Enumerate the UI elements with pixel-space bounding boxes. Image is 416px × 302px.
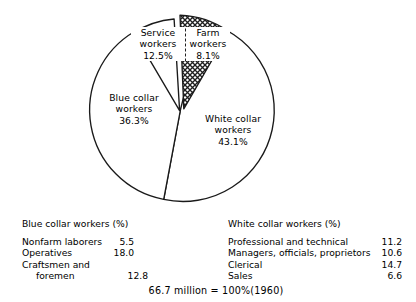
- table-row: Professional and technical 11.2: [228, 236, 402, 248]
- white-collar-table-title: White collar workers (%): [228, 218, 402, 230]
- pie-label-blue-collar: Blue collar workers 36.3%: [101, 92, 167, 126]
- pie-chart-figure: Service workers 12.5% Farm workers 8.1% …: [0, 0, 416, 302]
- pie-label-service: Service workers 12.5%: [131, 27, 185, 61]
- pie-label-white-collar: White collar workers 43.1%: [198, 113, 268, 147]
- table-cell-value: 12.8: [122, 270, 148, 282]
- table-cell-label: Sales: [228, 270, 374, 282]
- table-cell-label: Professional and technical: [228, 236, 374, 248]
- table-cell-label: Managers, officials, proprietors: [228, 247, 374, 259]
- table-cell-value: 5.5: [108, 236, 134, 248]
- white-collar-breakdown-table: White collar workers (%) Professional an…: [228, 218, 402, 282]
- chart-caption-text: 66.7 million = 100%(1960): [133, 285, 284, 296]
- table-cell-label: Craftsmen and: [22, 259, 108, 271]
- table-cell-value: 11.2: [374, 236, 402, 248]
- table-row: Sales 6.6: [228, 270, 402, 282]
- pie-label-white-collar-value: 43.1%: [198, 136, 268, 147]
- pie-label-farm: Farm workers 8.1%: [186, 27, 230, 61]
- pie-label-farm-line2: workers: [187, 38, 229, 49]
- pie-label-white-collar-line2: workers: [198, 124, 268, 135]
- pie-label-service-line2: workers: [131, 38, 185, 49]
- table-cell-value: 6.6: [374, 270, 402, 282]
- pie-label-blue-collar-line2: workers: [101, 103, 167, 114]
- pie-label-farm-line1: Farm: [187, 27, 229, 38]
- table-cell-value: 18.0: [108, 247, 134, 259]
- table-row: Nonfarm laborers 5.5: [22, 236, 148, 248]
- table-cell-label: Clerical: [228, 259, 374, 271]
- table-cell-label: foremen: [22, 270, 122, 282]
- chart-caption: 66.7 million = 100%(1960): [0, 285, 416, 296]
- table-cell-value: 10.6: [374, 247, 402, 259]
- pie-label-service-value: 12.5%: [131, 50, 185, 61]
- pie-label-service-line1: Service: [131, 27, 185, 38]
- table-cell-value: 14.7: [374, 259, 402, 271]
- pie-label-blue-collar-value: 36.3%: [101, 115, 167, 126]
- pie-label-white-collar-line1: White collar: [198, 113, 268, 124]
- table-row: Craftsmen and: [22, 259, 148, 271]
- blue-collar-breakdown-table: Blue collar workers (%) Nonfarm laborers…: [22, 218, 148, 282]
- table-row: foremen 12.8: [22, 270, 148, 282]
- table-cell-label: Nonfarm laborers: [22, 236, 108, 248]
- table-row: Managers, officials, proprietors 10.6: [228, 247, 402, 259]
- table-row: Operatives 18.0: [22, 247, 148, 259]
- table-cell-label: Operatives: [22, 247, 108, 259]
- table-row: Clerical 14.7: [228, 259, 402, 271]
- pie-label-blue-collar-line1: Blue collar: [101, 92, 167, 103]
- blue-collar-table-title: Blue collar workers (%): [22, 218, 148, 230]
- pie-label-farm-value: 8.1%: [187, 50, 229, 61]
